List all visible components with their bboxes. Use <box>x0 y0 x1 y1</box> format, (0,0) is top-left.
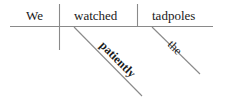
sentence-diagram: We watched tadpoles patiently the <box>0 0 226 98</box>
adverb-modifier-line <box>74 27 142 96</box>
subject-word: We <box>26 9 43 22</box>
object-word: tadpoles <box>152 9 195 22</box>
verb-word: watched <box>74 9 117 22</box>
